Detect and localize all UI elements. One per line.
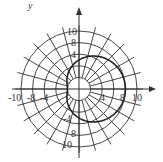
grid-radial-line — [34, 44, 71, 81]
y-tick-neg10: 10 — [62, 139, 72, 150]
y-tick-neg4: -4 — [63, 113, 71, 124]
y-axis-label: y — [27, 0, 33, 11]
x-tick-neg4: -4 — [40, 92, 48, 103]
y-tick-10: 10 — [67, 26, 77, 37]
x-tick-4: 4 — [100, 92, 105, 103]
y-tick-4: 4 — [71, 49, 76, 60]
grid-radial-line — [82, 27, 96, 77]
polar-graph: y -10 -8 -4 4 8 10 10 8 4 -4 8 10 — [0, 0, 163, 162]
x-axis-arrow-icon — [149, 86, 156, 92]
x-tick-10: 10 — [132, 92, 142, 103]
y-tick-neg8: 8 — [71, 128, 76, 139]
grid-radial-line — [24, 57, 69, 83]
grid-radial-line — [90, 72, 140, 86]
x-tick-neg8: -8 — [27, 92, 35, 103]
x-tick-neg10: -10 — [8, 92, 21, 103]
y-axis-arrow-icon — [76, 7, 82, 15]
y-tick-8: 8 — [71, 37, 76, 48]
x-tick-8: 8 — [120, 92, 125, 103]
grid-radial-line — [82, 100, 96, 150]
grid-radial-line — [87, 44, 124, 81]
grid-radial-line — [17, 72, 67, 86]
grid-radial-line — [87, 97, 124, 134]
